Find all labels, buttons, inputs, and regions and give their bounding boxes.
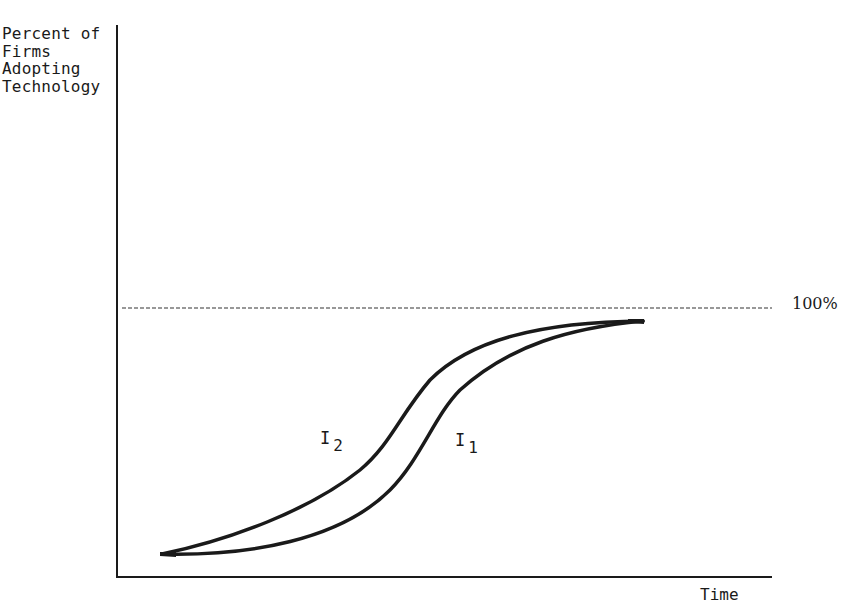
curve-start-tip <box>160 552 176 557</box>
x-axis-label: Time <box>700 585 739 604</box>
curve-i2 <box>162 321 643 554</box>
curve-i1 <box>162 321 643 554</box>
reference-label-100: 100% <box>792 294 838 313</box>
diffusion-diagram: Percent of Firms Adopting Technology I2 … <box>0 0 856 613</box>
diagram-canvas <box>0 0 856 613</box>
curve-i1-label: I1 <box>455 430 478 457</box>
curve-i2-label: I2 <box>320 428 343 455</box>
